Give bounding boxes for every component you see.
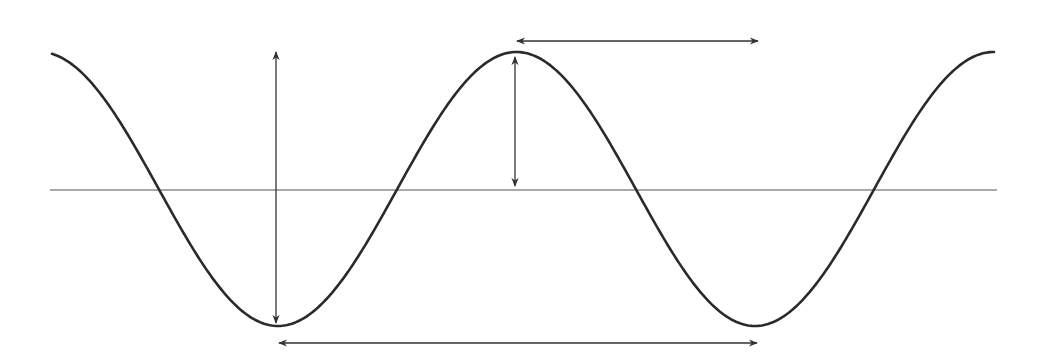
- sine-wave-curve: [52, 52, 994, 326]
- dimension-arrows: [276, 41, 758, 343]
- wave-diagram: [0, 0, 1049, 359]
